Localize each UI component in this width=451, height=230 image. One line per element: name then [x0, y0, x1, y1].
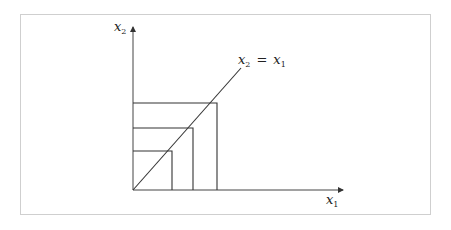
x-axis-label: x1: [326, 192, 338, 209]
y-axis-label: x2: [114, 19, 126, 36]
diagonal-line-label: x2=x1: [238, 52, 286, 69]
indifference-curve-2: [133, 128, 193, 190]
diagonal-line: [133, 68, 241, 190]
diagram-canvas: x2 x1 x2=x1: [0, 0, 451, 230]
indifference-curve-3: [133, 103, 217, 190]
indifference-curves: [133, 103, 217, 190]
